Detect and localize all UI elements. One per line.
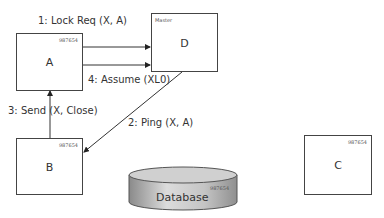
node-c-id: 987654 <box>348 139 367 145</box>
edge-label-lock-req: 1: Lock Req (X, A) <box>38 15 127 26</box>
database-id: 987654 <box>210 185 229 191</box>
node-a-id: 987654 <box>59 37 78 43</box>
node-d-label: D <box>152 36 217 49</box>
node-b[interactable]: 987654 B <box>16 138 83 195</box>
node-d[interactable]: Master D <box>151 13 218 72</box>
node-b-id: 987654 <box>59 142 78 148</box>
node-b-label: B <box>17 160 82 173</box>
node-c[interactable]: 987654 C <box>304 135 372 195</box>
edge-label-send: 3: Send (X, Close) <box>8 105 98 116</box>
edge-label-assume: 4: Assume (XL0) <box>88 74 170 85</box>
node-a-label: A <box>17 56 82 69</box>
node-d-tag: Master <box>155 17 172 23</box>
edge-label-ping: 2: Ping (X, A) <box>128 117 193 128</box>
node-c-label: C <box>305 159 371 172</box>
database-label: Database <box>156 191 209 204</box>
node-a[interactable]: 987654 A <box>16 33 83 91</box>
database-node[interactable]: 987654 Database <box>128 166 238 212</box>
